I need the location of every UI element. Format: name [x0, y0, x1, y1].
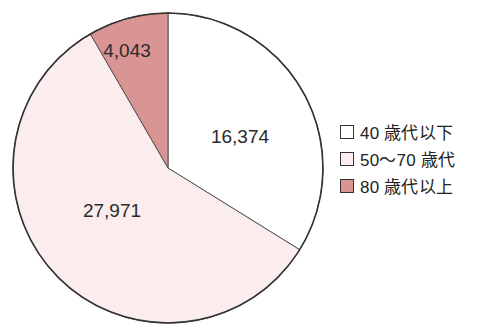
legend: 40 歳代以下 50〜70 歳代 80 歳代以上: [340, 118, 455, 199]
legend-label: 50〜70 歳代: [360, 146, 455, 171]
slice-value-label: 27,971: [83, 200, 141, 221]
legend-label: 80 歳代以上: [360, 173, 453, 198]
legend-swatch: [340, 179, 354, 193]
slice-value-label: 16,374: [211, 126, 270, 147]
legend-item-50s-to-70s: 50〜70 歳代: [340, 145, 455, 172]
legend-swatch: [340, 152, 354, 166]
legend-swatch: [340, 125, 354, 139]
slice-value-label: 4,043: [103, 40, 151, 61]
legend-item-40s-and-under: 40 歳代以下: [340, 118, 455, 145]
legend-item-80s-and-over: 80 歳代以上: [340, 172, 455, 199]
legend-label: 40 歳代以下: [360, 119, 453, 144]
